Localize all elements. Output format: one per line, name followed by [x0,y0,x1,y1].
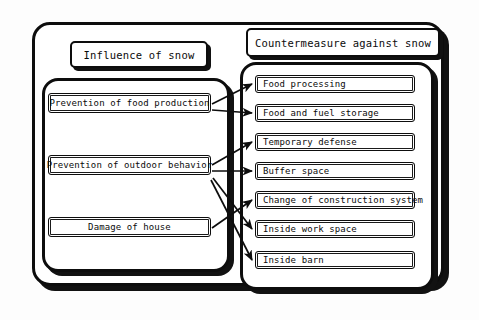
link-food-production-to-food-processing [212,84,252,104]
item-inside-work-space[interactable]: Inside work space [255,220,415,238]
item-outdoor-behavior[interactable]: Prevention of outdoor behavior [48,155,211,175]
countermeasure-title: Countermeasure against snow [246,28,440,57]
item-construction[interactable]: Change of construction system [255,191,415,209]
influence-of-snow-title: Influence of snow [70,41,208,68]
item-damage-house-label: Damage of house [88,222,171,232]
item-food-processing-label: Food processing [263,79,346,89]
item-inside-barn[interactable]: Inside barn [255,251,415,269]
countermeasure-label: Countermeasure against snow [255,37,431,49]
item-food-production-label: Prevention of food production [49,98,209,108]
item-buffer-space[interactable]: Buffer space [255,162,415,180]
item-outdoor-behavior-label: Prevention of outdoor behavior [47,160,213,170]
link-food-production-to-food-fuel-storage [212,110,252,113]
item-temporary-defense[interactable]: Temporary defense [255,133,415,151]
item-food-fuel-storage[interactable]: Food and fuel storage [255,104,415,122]
item-damage-house[interactable]: Damage of house [48,217,211,237]
item-temporary-defense-label: Temporary defense [263,137,357,147]
item-inside-barn-label: Inside barn [263,255,324,265]
item-food-fuel-storage-label: Food and fuel storage [263,108,379,118]
link-outdoor-behavior-to-temporary-defense [212,142,252,165]
item-inside-work-space-label: Inside work space [263,224,357,234]
item-food-processing[interactable]: Food processing [255,75,415,93]
item-food-production[interactable]: Prevention of food production [48,93,211,113]
item-construction-label: Change of construction system [263,195,423,205]
item-buffer-space-label: Buffer space [263,166,329,176]
influence-of-snow-label: Influence of snow [84,49,195,61]
diagram-canvas: Influence of snow Countermeasure against… [0,0,479,320]
